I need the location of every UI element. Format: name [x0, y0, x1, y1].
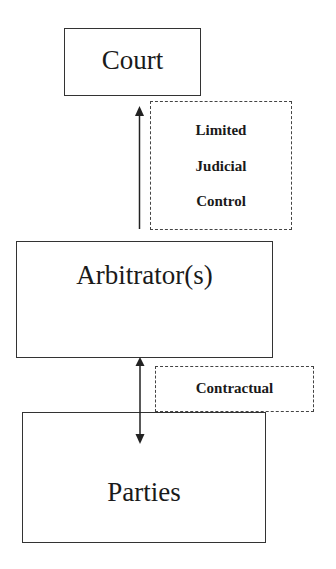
- double-arrow-icon: [136, 357, 145, 444]
- arrows-layer: [0, 0, 336, 569]
- arrow-up-icon: [135, 106, 144, 229]
